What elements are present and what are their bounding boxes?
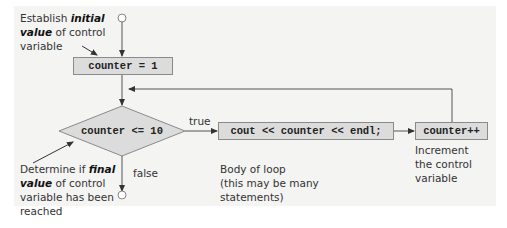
condition-label: counter <= 10 [81,125,163,137]
final-value-annotation: Determine if final value of control vari… [20,162,115,218]
false-edge-label: false [133,167,158,179]
increment-annotation: Increment the control variable [415,143,472,185]
init-box: counter = 1 [73,57,173,75]
start-node-circle [118,14,126,22]
body-box: cout << counter << endl; [218,122,394,140]
loop-body-annotation: Body of loop (this may be many statement… [220,162,319,204]
true-edge-label: true [189,115,211,127]
increment-box: counter++ [415,122,488,140]
end-node-circle [118,191,126,199]
initial-value-annotation: Establish initial value of control varia… [20,11,105,53]
